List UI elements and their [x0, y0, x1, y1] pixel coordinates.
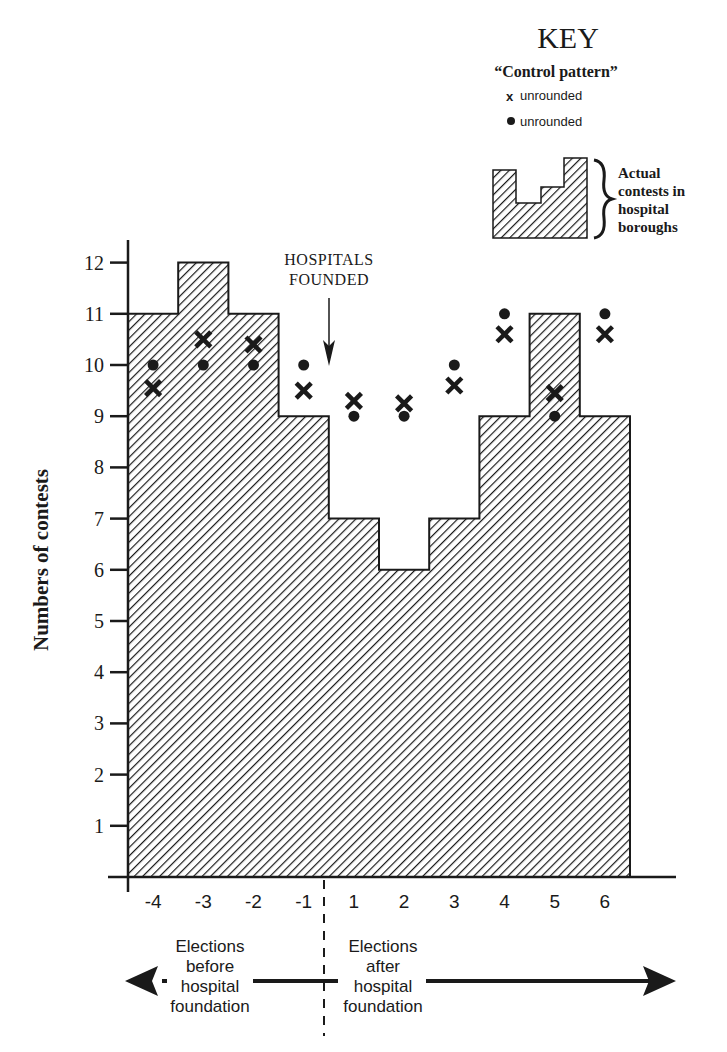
y-tick-label: 6: [94, 559, 104, 581]
key-brace-icon: [594, 160, 612, 238]
svg-text:after: after: [366, 957, 400, 976]
key-title: KEY: [537, 21, 599, 54]
dot-marker-icon: [449, 360, 460, 371]
x-tick-label: -2: [245, 891, 262, 912]
dot-marker-icon: [298, 360, 309, 371]
dot-marker-icon: [549, 411, 560, 422]
y-tick-label: 3: [94, 712, 104, 734]
dot-marker-icon: [148, 360, 159, 371]
dot-marker-icon: [198, 360, 209, 371]
key-desc-line-3: hospital: [618, 201, 669, 217]
y-tick-label: 7: [94, 508, 104, 530]
before-period-label: Elections before hospital foundation: [170, 937, 249, 1016]
key-dot-marker-icon: [507, 117, 515, 125]
svg-text:before: before: [186, 957, 234, 976]
y-axis-ticks: 123456789101112: [84, 252, 128, 837]
dot-marker-icon: [348, 411, 359, 422]
x-tick-label: 2: [399, 891, 410, 912]
y-tick-label: 4: [94, 661, 104, 683]
annotation-line-2: FOUNDED: [289, 271, 369, 288]
x-marker-icon: [497, 327, 512, 342]
y-tick-label: 8: [94, 456, 104, 478]
y-tick-label: 2: [94, 764, 104, 786]
key-hatch-swatch: [493, 158, 587, 238]
svg-text:Elections: Elections: [176, 937, 245, 956]
x-tick-label: 1: [349, 891, 360, 912]
dot-marker-icon: [599, 308, 610, 319]
y-tick-label: 5: [94, 610, 104, 632]
x-marker-icon: [447, 378, 462, 393]
y-tick-label: 10: [84, 354, 104, 376]
x-marker-icon: [346, 393, 361, 408]
dot-marker-icon: [499, 308, 510, 319]
hatched-step-bars: [128, 263, 630, 877]
key-x-marker-icon: x: [506, 89, 514, 104]
x-tick-label: -1: [295, 891, 312, 912]
x-axis-tick-labels: -4-3-2-1123456: [145, 891, 611, 912]
key-desc-line-2: contests in: [618, 183, 686, 199]
x-marker-icon: [296, 383, 311, 398]
x-tick-label: 6: [600, 891, 611, 912]
y-tick-label: 11: [85, 303, 104, 325]
key-x-label: unrounded: [520, 88, 582, 103]
svg-text:hospital: hospital: [181, 977, 240, 996]
key-desc-line-1: Actual: [618, 165, 661, 181]
x-tick-label: -3: [195, 891, 212, 912]
y-tick-label: 12: [84, 252, 104, 274]
left-arrow-icon: [125, 966, 158, 996]
key-desc-line-4: boroughs: [618, 219, 678, 235]
key-subtitle: “Control pattern”: [494, 63, 618, 81]
y-axis-label: Numbers of contests: [29, 469, 53, 651]
svg-text:Elections: Elections: [349, 937, 418, 956]
svg-text:foundation: foundation: [170, 997, 249, 1016]
y-tick-label: 1: [94, 815, 104, 837]
x-tick-label: 4: [499, 891, 510, 912]
legend-key: KEY “Control pattern” x unrounded unroun…: [493, 21, 686, 238]
x-marker-icon: [397, 396, 412, 411]
annotation-line-1: HOSPITALS: [284, 251, 373, 268]
svg-text:hospital: hospital: [354, 977, 413, 996]
after-period-label: Elections after hospital foundation: [343, 937, 422, 1016]
hospitals-founded-annotation: HOSPITALS FOUNDED: [284, 251, 373, 366]
key-dot-label: unrounded: [520, 114, 582, 129]
x-tick-label: -4: [145, 891, 162, 912]
x-tick-label: 5: [549, 891, 560, 912]
x-tick-label: 3: [449, 891, 460, 912]
y-tick-label: 9: [94, 405, 104, 427]
dot-marker-icon: [248, 360, 259, 371]
svg-text:foundation: foundation: [343, 997, 422, 1016]
contests-chart: 123456789101112 -4-3-2-1123456 Numbers o…: [0, 0, 727, 1052]
x-marker-icon: [597, 327, 612, 342]
bars-actual-contests: [128, 263, 630, 877]
dot-marker-icon: [399, 411, 410, 422]
